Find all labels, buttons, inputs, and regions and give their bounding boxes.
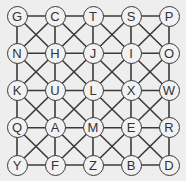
letter-node-h[interactable]: H <box>45 43 66 64</box>
letter-node-o[interactable]: O <box>159 43 180 64</box>
letter-node-q[interactable]: Q <box>7 117 28 138</box>
letter-node-m[interactable]: M <box>83 117 104 138</box>
letter-node-f[interactable]: F <box>45 155 66 176</box>
letter-node-d[interactable]: D <box>159 155 180 176</box>
letter-node-t[interactable]: T <box>83 6 104 27</box>
letter-node-i[interactable]: I <box>121 43 142 64</box>
letter-node-c[interactable]: C <box>45 6 66 27</box>
letter-grid-board: GCTSPNHJIOKULXWQAMERYFZBD <box>0 0 186 181</box>
letter-node-w[interactable]: W <box>159 80 180 101</box>
letter-node-k[interactable]: K <box>7 80 28 101</box>
letter-node-p[interactable]: P <box>159 6 180 27</box>
letter-node-s[interactable]: S <box>121 6 142 27</box>
letter-node-g[interactable]: G <box>7 6 28 27</box>
letter-node-l[interactable]: L <box>83 80 104 101</box>
letter-node-r[interactable]: R <box>159 117 180 138</box>
letter-node-n[interactable]: N <box>7 43 28 64</box>
letter-node-y[interactable]: Y <box>7 155 28 176</box>
letter-node-x[interactable]: X <box>121 80 142 101</box>
letter-node-z[interactable]: Z <box>83 155 104 176</box>
letter-node-j[interactable]: J <box>83 43 104 64</box>
letter-node-e[interactable]: E <box>121 117 142 138</box>
letter-node-b[interactable]: B <box>121 155 142 176</box>
letter-node-u[interactable]: U <box>45 80 66 101</box>
letter-node-a[interactable]: A <box>45 117 66 138</box>
